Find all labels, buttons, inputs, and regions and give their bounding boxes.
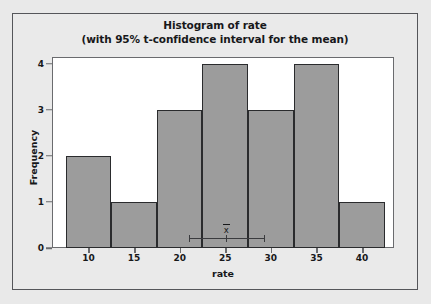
chart-title-block: Histogram of rate (with 95% t-confidence… [12, 18, 418, 46]
y-axis-tick-mark [46, 155, 52, 157]
x-axis-tick-label: 15 [119, 253, 149, 263]
x-axis-tick-mark [134, 248, 136, 253]
y-axis-tick-label: 2 [22, 151, 44, 161]
y-axis-tick-label: 1 [22, 197, 44, 207]
x-axis-tick-mark [362, 248, 364, 253]
x-axis-tick-label: 40 [347, 253, 377, 263]
y-axis-tick-mark [46, 201, 52, 203]
x-axis-tick-mark [180, 248, 182, 253]
x-axis-tick-label: 20 [165, 253, 195, 263]
y-axis-tick-mark [46, 63, 52, 65]
histogram-figure: Histogram of rate (with 95% t-confidence… [0, 0, 431, 304]
y-axis-tick-label: 0 [22, 243, 44, 253]
chart-subtitle: (with 95% t-confidence interval for the … [12, 32, 418, 46]
y-axis-tick-label: 3 [22, 105, 44, 115]
page-title: Histogram of rate [12, 18, 418, 32]
x-axis-tick-label: 35 [301, 253, 331, 263]
x-bar-icon: x [214, 224, 238, 235]
x-axis-tick-label: 30 [256, 253, 286, 263]
y-axis-tick-label: 4 [22, 59, 44, 69]
ci-lower-cap [189, 235, 190, 242]
x-axis-tick-mark [88, 248, 90, 253]
x-bar-letter: x [224, 225, 229, 235]
x-axis-tick-label: 10 [73, 253, 103, 263]
y-axis-tick-mark [46, 247, 52, 249]
histogram-bar [294, 64, 340, 248]
ci-upper-cap [264, 235, 265, 242]
histogram-bar [111, 202, 157, 248]
x-axis-tick-mark [271, 248, 273, 253]
histogram-bar [202, 64, 248, 248]
histogram-bar [157, 110, 203, 248]
x-axis-tick-label: 25 [210, 253, 240, 263]
histogram-bar [248, 110, 294, 248]
histogram-bars [52, 57, 394, 248]
histogram-bar [339, 202, 385, 248]
x-axis-tick-mark [225, 248, 227, 253]
y-axis-tick-mark [46, 109, 52, 111]
ci-mean-tick [226, 235, 227, 242]
x-axis-label: rate [52, 268, 394, 279]
x-axis-tick-mark [316, 248, 318, 253]
histogram-bar [66, 156, 112, 248]
